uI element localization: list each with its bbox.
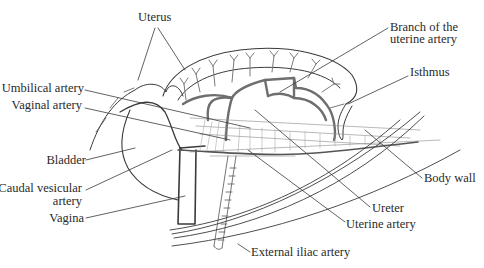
label-branch-uterine-artery-line2: uterine artery xyxy=(390,33,457,46)
arterial-arcade xyxy=(183,78,335,140)
uterine-horn-outer xyxy=(163,48,357,104)
label-uterus: Uterus xyxy=(138,11,171,24)
leader-caudal xyxy=(86,150,172,190)
label-caudal-vesicular-artery-line2: artery xyxy=(53,195,82,208)
leader-vagina xyxy=(86,196,185,218)
label-isthmus: Isthmus xyxy=(410,66,450,79)
label-bladder: Bladder xyxy=(46,154,86,167)
label-body-wall: Body wall xyxy=(424,172,476,185)
leader-uterus-2 xyxy=(158,28,185,70)
leader-uterus-1 xyxy=(138,28,155,80)
label-vaginal-artery: Vaginal artery xyxy=(12,99,82,112)
label-umbilical-artery: Umbilical artery xyxy=(2,82,84,95)
label-uterine-artery: Uterine artery xyxy=(346,218,416,231)
label-external-iliac-artery: External iliac artery xyxy=(251,246,350,259)
label-ureter: Ureter xyxy=(372,202,404,215)
leader-external-iliac xyxy=(238,244,250,252)
label-vagina: Vagina xyxy=(49,212,84,225)
anatomical-diagram: Uterus Branch of the uterine artery Isth… xyxy=(0,0,484,268)
body-wall xyxy=(170,112,460,246)
external-iliac-artery-vessel xyxy=(214,156,236,249)
vagina-outline xyxy=(178,148,196,224)
leader-bladder xyxy=(86,148,135,160)
